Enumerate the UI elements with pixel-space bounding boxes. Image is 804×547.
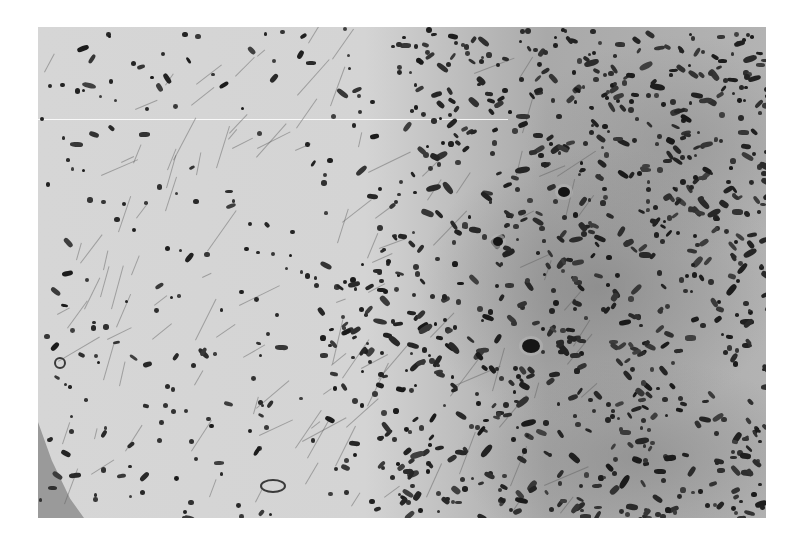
cell-nucleus	[457, 282, 464, 285]
cell-nucleus	[761, 383, 766, 390]
cell-nucleus	[624, 358, 632, 365]
cell-nucleus	[731, 440, 737, 445]
cell-nucleus	[94, 493, 97, 496]
cell-nucleus	[468, 215, 471, 218]
cell-nucleus	[522, 448, 527, 453]
cell-nucleus	[378, 436, 383, 441]
cell-nucleus	[520, 29, 525, 34]
cell-nucleus	[269, 513, 272, 516]
tissue-fiber	[57, 307, 70, 314]
cell-nucleus	[465, 51, 469, 55]
cell-nucleus	[402, 121, 413, 133]
cell-nucleus	[436, 336, 444, 341]
cell-nucleus	[557, 402, 561, 406]
cell-nucleus	[505, 283, 514, 288]
cell-nucleus	[641, 418, 647, 424]
cell-nucleus	[756, 52, 763, 56]
cell-nucleus	[495, 367, 499, 371]
cell-nucleus	[516, 454, 527, 463]
cell-nucleus	[715, 64, 722, 69]
cell-nucleus	[490, 402, 497, 409]
cell-nucleus	[513, 390, 517, 394]
cell-nucleus	[412, 293, 416, 297]
cell-nucleus	[379, 295, 391, 308]
cell-nucleus	[476, 401, 480, 405]
cell-nucleus	[264, 32, 267, 35]
cell-nucleus	[615, 273, 620, 278]
cell-nucleus	[630, 283, 643, 296]
cell-nucleus	[729, 166, 733, 170]
cell-nucleus	[653, 205, 659, 211]
cell-nucleus	[760, 203, 766, 207]
cell-nucleus	[144, 201, 148, 205]
cell-nucleus	[378, 187, 382, 191]
cell-nucleus	[567, 339, 572, 344]
cell-nucleus	[414, 44, 418, 48]
cell-nucleus	[75, 88, 80, 93]
cell-nucleus	[640, 426, 644, 430]
cell-nucleus	[625, 512, 631, 518]
cell-nucleus	[47, 438, 52, 443]
cell-nucleus	[593, 273, 603, 280]
cell-nucleus	[519, 77, 524, 82]
cell-nucleus	[142, 361, 152, 368]
cell-nucleus	[394, 287, 399, 292]
cell-nucleus	[82, 89, 85, 92]
cell-nucleus	[745, 468, 754, 477]
cell-nucleus	[409, 71, 412, 74]
tissue-fiber	[131, 256, 140, 276]
cell-nucleus	[646, 516, 651, 518]
cell-nucleus	[579, 484, 583, 488]
tissue-fiber	[103, 250, 108, 270]
cell-nucleus	[572, 259, 585, 266]
cell-nucleus	[100, 429, 107, 438]
cell-nucleus	[661, 478, 666, 483]
cell-nucleus	[296, 49, 305, 60]
cell-nucleus	[488, 309, 493, 314]
giant-cell-nucleus	[558, 187, 570, 197]
cell-nucleus	[688, 64, 692, 68]
cell-nucleus	[663, 220, 666, 223]
cell-nucleus	[399, 180, 403, 184]
cell-nucleus	[464, 44, 470, 50]
cell-nucleus	[548, 73, 559, 84]
cell-nucleus	[241, 107, 244, 110]
tissue-fiber	[305, 463, 319, 485]
cell-nucleus	[612, 136, 622, 141]
cell-nucleus	[609, 292, 619, 303]
cell-nucleus	[535, 428, 547, 436]
cell-nucleus	[646, 93, 651, 98]
cell-nucleus	[247, 45, 257, 55]
cell-nucleus	[541, 350, 545, 354]
cell-nucleus	[558, 481, 563, 486]
cell-nucleus	[568, 394, 579, 402]
cell-nucleus	[613, 457, 618, 462]
cell-nucleus	[426, 27, 432, 33]
cell-nucleus	[82, 169, 85, 172]
cell-nucleus	[324, 211, 328, 215]
cell-nucleus	[593, 390, 603, 401]
cell-nucleus	[77, 352, 85, 359]
cell-nucleus	[585, 428, 593, 434]
cell-nucleus	[553, 199, 558, 204]
cell-nucleus	[727, 77, 739, 83]
cell-nucleus	[482, 313, 495, 322]
cell-nucleus	[347, 54, 351, 58]
cell-nucleus	[690, 290, 693, 293]
cell-nucleus	[760, 505, 765, 510]
cell-nucleus	[503, 182, 513, 189]
cell-nucleus	[654, 93, 659, 98]
cell-nucleus	[174, 476, 179, 481]
cell-nucleus	[719, 139, 723, 143]
cell-nucleus	[351, 356, 354, 359]
cell-nucleus	[607, 101, 616, 113]
cell-nucleus	[505, 223, 509, 227]
cell-nucleus	[761, 59, 766, 62]
cell-nucleus	[724, 229, 729, 234]
cell-nucleus	[626, 411, 633, 419]
cell-nucleus	[436, 371, 446, 379]
cell-nucleus	[593, 77, 598, 82]
tissue-fiber	[216, 126, 230, 168]
cell-nucleus	[731, 506, 736, 511]
cell-nucleus	[629, 99, 634, 104]
